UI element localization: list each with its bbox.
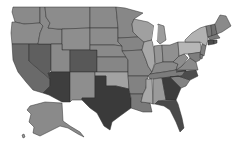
state-or[interactable]: Oregon [11,22,43,44]
state-hi[interactable]: Hawaii [22,134,25,138]
state-wa[interactable]: Washington [12,7,40,24]
state-nm[interactable]: New Mexico [70,72,95,102]
state-wy[interactable]: Wyoming [62,28,90,50]
state-co[interactable]: Colorado [70,50,97,72]
state-ri[interactable]: Rhode Island [214,40,217,44]
state-ct[interactable]: Connecticut [208,40,214,45]
state-fl[interactable]: Florida [155,100,184,132]
us-choropleth-map: WashingtonOregonCaliforniaNevadaIdahoMon… [0,0,242,146]
state-de[interactable]: Delaware [200,54,203,59]
state-ak[interactable]: Alaska [27,102,84,137]
state-ks[interactable]: Kansas [97,57,128,72]
state-sd[interactable]: South Dakota [90,28,122,46]
state-ia[interactable]: Iowa [118,37,144,51]
state-nd[interactable]: North Dakota [90,7,118,28]
state-me[interactable]: Maine [215,15,231,34]
state-mt[interactable]: Montana [45,7,90,29]
states-layer: WashingtonOregonCaliforniaNevadaIdahoMon… [11,7,231,138]
